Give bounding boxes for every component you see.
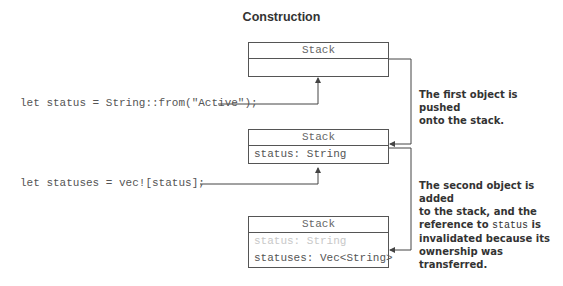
stack-header: Stack (249, 43, 388, 59)
note-line: onto the stack. (419, 114, 559, 127)
note-first-object: The first object is pushed onto the stac… (419, 88, 559, 127)
stack-row-statuses: statuses: Vec<String> (249, 250, 388, 267)
stack-box-1: Stack (248, 42, 389, 77)
note-line: reference to status is (419, 218, 559, 232)
stack-box-2: Stack status: String (248, 129, 389, 164)
stack-row-status-invalidated: status: String (249, 233, 388, 250)
note-line: to the stack, and the (419, 205, 559, 218)
code-line-status: let status = String::from("Active"); (20, 97, 258, 109)
note-line: The first object is pushed (419, 88, 559, 114)
stack-header: Stack (249, 130, 388, 146)
note-text: reference to (419, 219, 492, 230)
stack-row-status: status: String (249, 146, 388, 163)
code-line-statuses: let statuses = vec![status]; (20, 177, 205, 189)
stack-empty-row (249, 59, 388, 76)
stack-header: Stack (249, 217, 388, 233)
note-line: The second object is added (419, 179, 559, 205)
note-line: invalidated because its (419, 232, 559, 245)
note-text: is (528, 219, 541, 230)
note-code: status (492, 220, 528, 231)
note-line: ownership was transferred. (419, 245, 559, 271)
stack-box-3: Stack status: String statuses: Vec<Strin… (248, 216, 389, 268)
note-second-object: The second object is added to the stack,… (419, 179, 559, 271)
